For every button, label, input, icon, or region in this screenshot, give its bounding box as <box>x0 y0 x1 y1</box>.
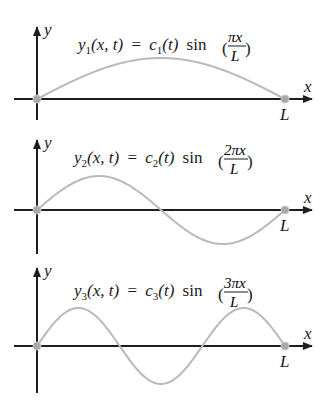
node-origin <box>33 342 41 350</box>
svg-text:L: L <box>229 161 238 177</box>
svg-text:y3(x, t) = c3(: y3(x, t) = c3(t) sin <box>72 281 203 302</box>
svg-text:L: L <box>229 294 238 310</box>
svg-text:y1(x, t) = c1(: y1(x, t) = c1(t) sin <box>76 35 207 56</box>
svg-text:πx: πx <box>228 29 243 45</box>
equation-mode-2: y2(x, t) = c2(t) sin ( 2πx L ) <box>72 142 253 177</box>
standing-wave-diagram: y x L y1(x, t) = c1(t) sin ( πx L ) y x … <box>0 0 332 415</box>
equation-mode-3: y3(x, t) = c3(t) sin ( 3πx L ) <box>72 275 253 310</box>
svg-text:y2(x, t) = c2(: y2(x, t) = c2(t) sin <box>72 148 203 169</box>
panel-mode-1: y x L y1(x, t) = c1(t) sin ( πx L ) <box>14 20 312 124</box>
y-axis-label: y <box>42 261 52 280</box>
y-axis-label: y <box>42 133 52 152</box>
y-axis-label: y <box>42 20 52 39</box>
node-end <box>281 342 289 350</box>
x-axis-label: x <box>303 324 312 343</box>
svg-text:L: L <box>230 48 239 64</box>
node-end <box>281 206 289 214</box>
x-axis-label: x <box>303 77 312 96</box>
length-label: L <box>279 105 289 124</box>
svg-text:): ) <box>247 152 253 171</box>
x-axis-label: x <box>303 188 312 207</box>
node-origin <box>33 95 41 103</box>
panel-mode-2: y x L y2(x, t) = c2(t) sin ( 2πx L ) <box>14 133 312 254</box>
svg-text:2πx: 2πx <box>224 142 246 158</box>
node-end <box>281 95 289 103</box>
mode-1-curve <box>37 58 285 99</box>
svg-text:): ) <box>245 39 251 58</box>
svg-text:): ) <box>247 285 253 304</box>
length-label: L <box>279 216 289 235</box>
length-label: L <box>279 352 289 371</box>
node-origin <box>33 206 41 214</box>
panel-mode-3: y x L y3(x, t) = c3(t) sin ( 3πx L ) <box>14 261 312 393</box>
svg-text:3πx: 3πx <box>223 275 246 291</box>
